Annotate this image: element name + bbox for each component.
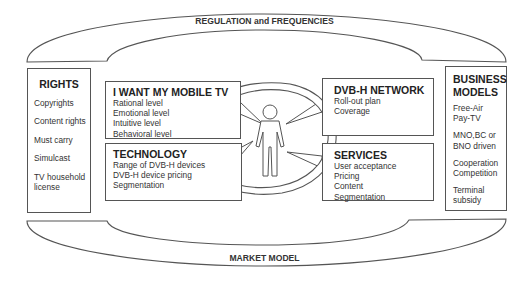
business-item: MNO,BC or BNO driven	[453, 130, 503, 150]
business-title-line1: BUSINESS	[453, 73, 506, 86]
services-item: Pricing	[334, 171, 433, 181]
market-label: MARKET MODEL	[0, 253, 529, 263]
rights-item: TV household license	[34, 172, 88, 192]
services-item: Segmentation	[334, 192, 433, 202]
business-box: BUSINESS MODELS Free-Air Pay-TV MNO,BC o…	[445, 66, 507, 211]
services-item: User acceptance	[334, 161, 433, 171]
business-item: Cooperation Competition	[453, 158, 503, 178]
technology-item: DVB-H device pricing	[113, 170, 241, 180]
want-title: I WANT MY MOBILE TV	[113, 86, 240, 98]
business-item: Terminal subsidy	[453, 185, 495, 205]
person-icon	[256, 105, 284, 176]
rights-item: Copyrights	[34, 98, 90, 108]
network-box: DVB-H NETWORK Roll-out plan Coverage	[322, 78, 434, 136]
want-item: Rational level	[113, 98, 240, 108]
rights-item: Simulcast	[34, 153, 90, 163]
regulation-label: REGULATION and FREQUENCIES	[0, 16, 529, 26]
want-item: Emotional level	[113, 108, 240, 118]
want-box: I WANT MY MOBILE TV Rational level Emoti…	[105, 81, 241, 139]
network-title: DVB-H NETWORK	[334, 84, 433, 96]
technology-item: Range of DVB-H devices	[113, 160, 241, 170]
technology-title: TECHNOLOGY	[113, 148, 241, 160]
rights-box: RIGHTS Copyrights Content rights Must ca…	[27, 68, 91, 213]
technology-item: Segmentation	[113, 180, 241, 190]
business-title: BUSINESS MODELS	[453, 73, 506, 99]
services-title: SERVICES	[334, 149, 433, 161]
services-item: Content	[334, 181, 433, 191]
business-title-line2: MODELS	[453, 86, 506, 99]
network-item: Roll-out plan	[334, 96, 433, 106]
want-item: Behavioral level	[113, 129, 240, 139]
want-item: Intuitive level	[113, 118, 240, 128]
network-item: Coverage	[334, 106, 433, 116]
rights-title: RIGHTS	[28, 78, 90, 90]
technology-box: TECHNOLOGY Range of DVB-H devices DVB-H …	[105, 143, 242, 201]
rights-item: Content rights	[34, 116, 90, 126]
business-item: Free-Air Pay-TV	[453, 103, 493, 123]
services-box: SERVICES User acceptance Pricing Content…	[322, 143, 434, 201]
rights-item: Must carry	[34, 135, 90, 145]
